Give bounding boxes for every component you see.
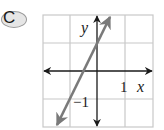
x-axis-label: x [136, 78, 144, 95]
y-tick-label-neg1: −1 [73, 94, 89, 110]
coordinate-graph: y x 1 −1 [0, 0, 164, 130]
x-tick-label-1: 1 [120, 79, 128, 95]
y-axis-label: y [79, 19, 89, 37]
